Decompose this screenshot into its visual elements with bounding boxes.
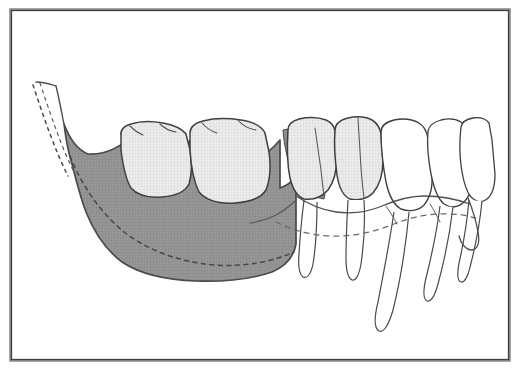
tooth-premolar-2-crown — [287, 118, 337, 200]
tooth-molar-2-crown — [121, 122, 192, 198]
figure-container: Lateral view of mandible with teeth — [0, 0, 520, 371]
tooth-molar-1-crown — [190, 119, 270, 204]
tooth-molar-2 — [121, 122, 192, 198]
mandible-illustration — [0, 0, 520, 371]
tooth-molar-1 — [190, 119, 270, 204]
